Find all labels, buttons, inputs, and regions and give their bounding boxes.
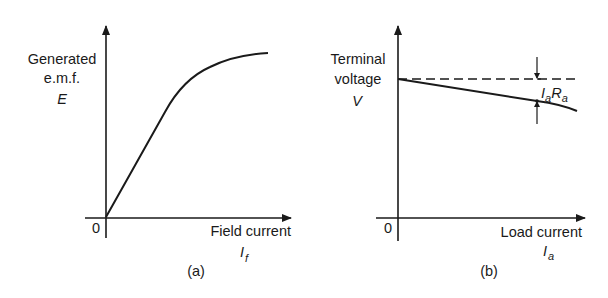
panel-a-origin-label: 0 — [92, 220, 100, 236]
panel-b-origin-label: 0 — [384, 220, 392, 236]
panel-a-x-label: Field current — [210, 223, 291, 239]
panel-a-y-label-symbol: E — [57, 91, 67, 107]
panel-b-y-label-line2: voltage — [335, 71, 382, 87]
panel-b-x-label: Load current — [501, 224, 582, 240]
panel-b-y-label-symbol: V — [352, 93, 363, 109]
panel-b-drop-annotation: IaRa — [541, 85, 568, 104]
panel-a-y-label-line2: e.m.f. — [44, 70, 80, 86]
panel-b-caption: (b) — [480, 263, 498, 279]
panel-b-x-symbol: Ia — [543, 243, 554, 262]
panel-a-x-symbol: If — [240, 244, 249, 264]
panel-a-magnetisation-curve — [106, 53, 268, 217]
panel-a: Generated e.m.f. E 0 Field current If (a… — [28, 26, 291, 279]
panel-a-caption: (a) — [187, 263, 205, 279]
panel-b: IaRa Terminal voltage V 0 Load current I… — [331, 26, 585, 279]
diagram-canvas: Generated e.m.f. E 0 Field current If (a… — [0, 0, 608, 298]
panel-a-y-label-line1: Generated — [28, 51, 97, 67]
panel-b-drop-point — [535, 99, 539, 103]
panel-b-y-label-line1: Terminal — [331, 51, 386, 67]
